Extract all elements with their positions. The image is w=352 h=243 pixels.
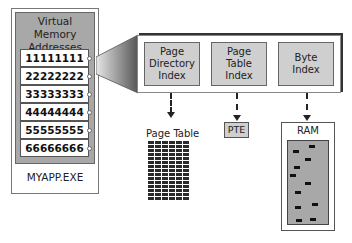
page-table-entry xyxy=(155,161,161,164)
page-table-entry xyxy=(162,185,168,188)
page-table-entry xyxy=(148,145,154,148)
page-table-entry xyxy=(155,173,161,176)
page-table-entry xyxy=(148,141,154,144)
page-table-entry xyxy=(155,169,161,172)
page-table-entry xyxy=(148,157,154,160)
ram-page xyxy=(290,174,296,177)
connector-dot-icon xyxy=(87,74,92,79)
page-table-entry xyxy=(155,197,161,200)
page-table-entry xyxy=(176,197,182,200)
page-table-entry xyxy=(169,157,175,160)
page-table-entry xyxy=(176,181,182,184)
page-table-entry xyxy=(162,141,168,144)
page-table-entry xyxy=(183,181,189,184)
page-table-entry xyxy=(155,141,161,144)
page-table-entry xyxy=(169,153,175,156)
ram-page xyxy=(294,166,300,169)
ram-page xyxy=(305,158,311,161)
page-table-entry xyxy=(169,149,175,152)
page-table-entry xyxy=(162,145,168,148)
field-label: Page xyxy=(149,46,195,58)
page-table-entry xyxy=(169,169,175,172)
page-table-entry xyxy=(162,153,168,156)
page-table-entry xyxy=(148,165,154,168)
page-table-entry xyxy=(176,165,182,168)
page-table-entry xyxy=(162,193,168,196)
page-table-entry xyxy=(169,181,175,184)
page-table-entry xyxy=(155,145,161,148)
field-label: Index xyxy=(225,70,253,82)
page-table-entry xyxy=(155,153,161,156)
connector-dot-icon xyxy=(87,110,92,115)
page-table-entry xyxy=(183,169,189,172)
field-label: Directory xyxy=(149,58,195,70)
connector-dot-icon xyxy=(87,92,92,97)
field-label: Index xyxy=(292,64,320,76)
page-table-entry xyxy=(169,189,175,192)
page-table-entry xyxy=(176,169,182,172)
page-table-entry xyxy=(176,161,182,164)
page-table-entry xyxy=(162,161,168,164)
page-table-entry xyxy=(176,157,182,160)
page-table-entry xyxy=(148,173,154,176)
field-label: Byte xyxy=(292,52,320,64)
page-table-entry xyxy=(183,165,189,168)
virtual-address-row: 44444444 xyxy=(20,103,89,121)
pte-box: PTE xyxy=(224,122,249,138)
page-table-entry xyxy=(169,145,175,148)
ram-label: RAM xyxy=(281,125,335,136)
page-table-entry xyxy=(148,149,154,152)
page-table-entry xyxy=(155,165,161,168)
page-table-entry xyxy=(148,177,154,180)
page-table-entry xyxy=(176,145,182,148)
page-table-entry xyxy=(183,189,189,192)
page-table-entry xyxy=(183,173,189,176)
page-table-entry xyxy=(183,153,189,156)
page-table-entry xyxy=(148,161,154,164)
page-table-entry xyxy=(183,149,189,152)
page-table-entry xyxy=(162,173,168,176)
virtual-address-row: 11111111 xyxy=(20,49,89,67)
ram-page xyxy=(309,145,315,148)
page-table-entry xyxy=(176,149,182,152)
page-table-index-field: Page Table Index xyxy=(211,42,267,86)
page-table-entry xyxy=(162,157,168,160)
page-table-entry xyxy=(169,141,175,144)
callout-wedge xyxy=(96,33,142,95)
page-table-entry xyxy=(183,197,189,200)
arrow-head-icon xyxy=(303,115,311,121)
page-table-entry xyxy=(148,169,154,172)
page-table-entry xyxy=(155,185,161,188)
page-table-entry xyxy=(183,145,189,148)
field-label: Index xyxy=(149,70,195,82)
arrow-to-page-table xyxy=(170,93,172,113)
title-line-1: Virtual Memory xyxy=(15,15,95,41)
page-table-entry xyxy=(162,181,168,184)
page-table-entry xyxy=(148,193,154,196)
page-table-entry xyxy=(183,161,189,164)
page-table-entry xyxy=(162,177,168,180)
page-table-entry xyxy=(169,185,175,188)
page-table-entry xyxy=(176,173,182,176)
page-table-entry xyxy=(183,193,189,196)
arrow-head-icon xyxy=(167,112,175,118)
connector-dot-icon xyxy=(87,56,92,61)
arrow-to-ram xyxy=(306,93,308,110)
page-table-entry xyxy=(176,141,182,144)
ram-page xyxy=(312,203,318,206)
page-table-entry xyxy=(155,189,161,192)
page-table-entry xyxy=(169,173,175,176)
page-table-entry xyxy=(169,197,175,200)
ram-page xyxy=(295,191,301,194)
page-table-entry xyxy=(162,169,168,172)
page-table-entry xyxy=(176,185,182,188)
page-directory-index-field: Page Directory Index xyxy=(144,42,200,86)
page-table-entry xyxy=(169,165,175,168)
page-table-entry xyxy=(176,189,182,192)
ram-page xyxy=(296,219,302,222)
page-table-entry xyxy=(176,193,182,196)
arrow-head-icon xyxy=(233,115,241,121)
page-table-entry xyxy=(176,177,182,180)
page-table-entry xyxy=(155,157,161,160)
page-table-entry xyxy=(176,153,182,156)
